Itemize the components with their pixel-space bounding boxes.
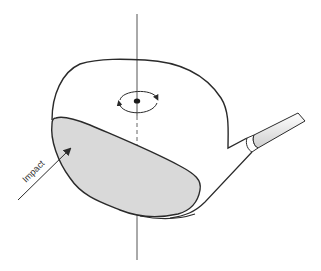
hosel-and-shaft	[246, 113, 305, 152]
club-face	[52, 117, 201, 216]
shaft	[253, 113, 305, 148]
impact-label: Impact	[20, 158, 47, 185]
golf-club-head-diagram: Impact	[0, 0, 321, 271]
center-of-gravity-dot	[134, 98, 140, 103]
spin-arc-lower-icon	[119, 103, 157, 113]
spin-indicator	[119, 91, 157, 112]
